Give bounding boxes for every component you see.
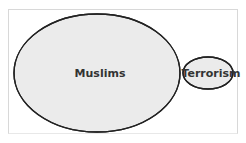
label-muslims: Muslims — [75, 67, 126, 80]
venn-diagram: Muslims Terrorism — [0, 0, 246, 143]
label-terrorism: Terrorism — [181, 67, 240, 80]
